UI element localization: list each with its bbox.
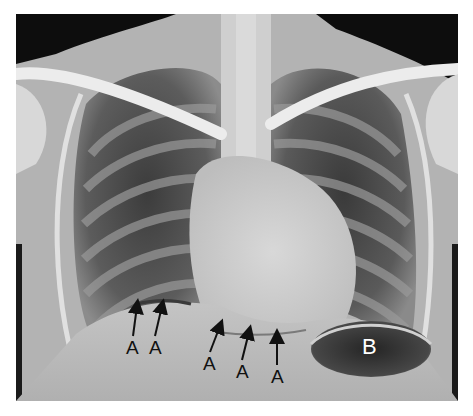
label-a1: A [126,338,139,357]
xray-rendering [16,14,458,401]
label-a5: A [271,367,284,386]
label-a3: A [203,354,216,373]
label-a2: A [149,338,162,357]
chest-xray-image: A A A A A B [16,14,458,401]
label-a4: A [236,362,249,381]
label-b-gastric-bubble: B [362,336,377,358]
